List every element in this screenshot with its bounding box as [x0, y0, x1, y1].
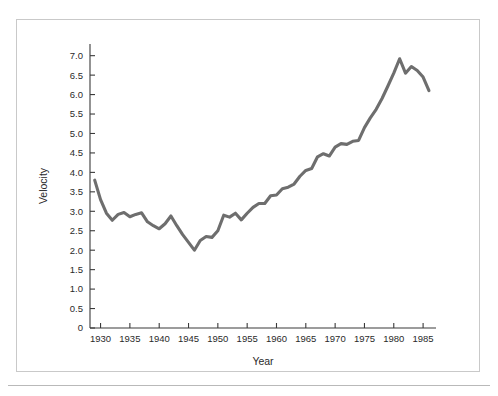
x-tick-label: 1985 [413, 333, 434, 344]
page-root: 00.51.01.52.02.53.03.54.04.55.05.56.06.5… [0, 0, 498, 396]
y-tick-label: 3.5 [70, 186, 83, 197]
y-tick-label: 2.0 [70, 245, 83, 256]
axes [90, 44, 436, 328]
figure-frame: 00.51.01.52.02.53.03.54.04.55.05.56.06.5… [16, 19, 480, 372]
y-tick-group: 00.51.01.52.02.53.03.54.04.55.05.56.06.5… [70, 50, 95, 333]
x-tick-label: 1960 [266, 333, 287, 344]
y-tick-label: 5.0 [70, 128, 83, 139]
y-tick-label: 3.0 [70, 206, 83, 217]
x-tick-label: 1965 [295, 333, 316, 344]
y-tick-label: 6.5 [70, 70, 83, 81]
y-tick-label: 1.5 [70, 264, 83, 275]
y-tick-label: 4.0 [70, 167, 83, 178]
x-tick-group: 1930193519401945195019551960196519701975… [90, 323, 434, 344]
x-axis-title: Year [252, 355, 274, 367]
x-tick-label: 1970 [325, 333, 346, 344]
x-tick-label: 1980 [383, 333, 404, 344]
y-tick-label: 0.5 [70, 303, 83, 314]
y-tick-label: 2.5 [70, 225, 83, 236]
x-tick-label: 1935 [119, 333, 140, 344]
bottom-divider [8, 385, 490, 386]
x-tick-label: 1930 [90, 333, 111, 344]
y-axis-title: Velocity [37, 167, 49, 204]
x-tick-label: 1950 [207, 333, 228, 344]
y-tick-label: 6.0 [70, 89, 83, 100]
x-tick-label: 1955 [237, 333, 258, 344]
x-tick-label: 1945 [178, 333, 199, 344]
y-tick-label: 4.5 [70, 147, 83, 158]
x-tick-label: 1975 [354, 333, 375, 344]
x-tick-label: 1940 [149, 333, 170, 344]
y-tick-label: 7.0 [70, 50, 83, 61]
y-tick-label: 5.5 [70, 108, 83, 119]
y-tick-label: 1.0 [70, 283, 83, 294]
series-group [95, 59, 429, 250]
line-chart: 00.51.01.52.02.53.03.54.04.55.05.56.06.5… [17, 20, 481, 373]
data-line-velocity [95, 59, 429, 250]
y-tick-label: 0 [78, 322, 83, 333]
